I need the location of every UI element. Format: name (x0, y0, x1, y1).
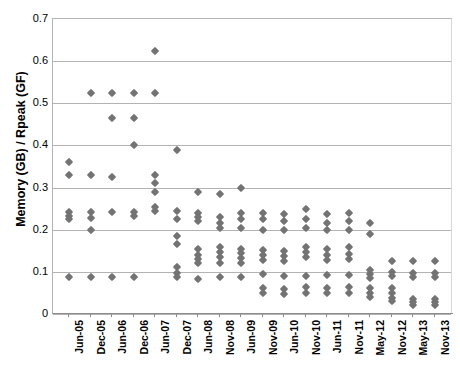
data-point (194, 188, 202, 196)
data-point (173, 207, 181, 215)
x-axis-tick-label: May-12 (374, 320, 386, 356)
data-point (173, 145, 181, 153)
y-axis-tick-label: 0.7 (4, 12, 48, 24)
data-point (130, 89, 138, 97)
plot-area (52, 18, 452, 313)
x-axis-tick (176, 313, 177, 317)
data-point (302, 289, 310, 297)
gridline (53, 145, 451, 146)
data-point (87, 214, 95, 222)
y-axis-tick-label: 0 (4, 307, 48, 319)
gridline (53, 230, 451, 231)
data-point (345, 255, 353, 263)
data-point (345, 225, 353, 233)
scatter-chart: Memory (GB) / Rpeak (GF) 0.70.60.50.40.3… (0, 0, 460, 366)
data-point (259, 289, 267, 297)
x-axis-line (52, 313, 453, 314)
data-point (87, 273, 95, 281)
data-point (237, 259, 245, 267)
x-axis-tick-label: Nov-12 (396, 320, 408, 355)
data-point (216, 258, 224, 266)
y-axis-tick-label: 0.1 (4, 265, 48, 277)
x-axis-tick (305, 313, 306, 317)
data-point (280, 257, 288, 265)
data-point (280, 272, 288, 280)
x-axis-tick-label: Jun-08 (202, 320, 214, 354)
data-point (259, 256, 267, 264)
data-point (280, 217, 288, 225)
data-point (87, 89, 95, 97)
data-point (151, 188, 159, 196)
data-point (216, 273, 224, 281)
data-point (302, 204, 310, 212)
data-point (194, 275, 202, 283)
data-point (409, 257, 417, 265)
data-point (259, 225, 267, 233)
data-point (388, 257, 396, 265)
data-point (108, 114, 116, 122)
gridline (53, 61, 451, 62)
data-point (65, 273, 73, 281)
data-point (345, 217, 353, 225)
x-axis-tick-label: Dec-06 (138, 320, 150, 354)
x-axis-tick-label: Jun-10 (288, 320, 300, 354)
data-point (366, 219, 374, 227)
data-point (302, 215, 310, 223)
data-point (65, 171, 73, 179)
x-axis-tick (219, 313, 220, 317)
x-axis-tick (111, 313, 112, 317)
gridline (53, 103, 451, 104)
x-axis-tick-label: Nov-13 (439, 320, 451, 355)
data-point (194, 259, 202, 267)
x-axis-tick-label: Nov-10 (310, 320, 322, 355)
x-axis-tick (348, 313, 349, 317)
data-point (366, 230, 374, 238)
data-point (237, 273, 245, 281)
x-axis-tick-label: Jun-09 (245, 320, 257, 354)
x-axis-tick (283, 313, 284, 317)
x-axis-tick-label: Nov-11 (353, 320, 365, 354)
gridline (53, 188, 451, 189)
data-point (194, 217, 202, 225)
x-axis-tick (434, 313, 435, 317)
y-axis-tick-label: 0.6 (4, 54, 48, 66)
data-point (151, 47, 159, 55)
x-axis-tick-label: Nov-09 (267, 320, 279, 355)
data-point (302, 253, 310, 261)
data-point (173, 240, 181, 248)
data-point (173, 215, 181, 223)
y-axis-tick-labels: 0.70.60.50.40.30.20.10 (0, 0, 48, 366)
y-axis-tick-label: 0.5 (4, 96, 48, 108)
data-point (237, 183, 245, 191)
data-point (302, 272, 310, 280)
data-point (130, 141, 138, 149)
data-point (280, 290, 288, 298)
x-axis-tick (197, 313, 198, 317)
x-axis-tick (133, 313, 134, 317)
x-axis-tick (326, 313, 327, 317)
x-axis-tick-label: Dec-05 (95, 320, 107, 354)
data-point (151, 179, 159, 187)
data-point (108, 173, 116, 181)
data-point (65, 158, 73, 166)
x-axis-tick-label: May-13 (417, 320, 429, 356)
data-point (237, 215, 245, 223)
data-point (87, 171, 95, 179)
data-point (151, 89, 159, 97)
x-axis-tick-label: Jun-07 (159, 320, 171, 354)
data-point (108, 273, 116, 281)
x-axis-tick (391, 313, 392, 317)
x-axis-tick (68, 313, 69, 317)
data-point (323, 225, 331, 233)
x-axis-tick-label: Jun-11 (331, 320, 343, 353)
data-point (431, 257, 439, 265)
data-point (216, 190, 224, 198)
x-axis-tick-label: Jun-06 (116, 320, 128, 354)
x-axis-tick-label: Jun-05 (73, 320, 85, 354)
data-point (108, 207, 116, 215)
x-axis-tick-label: Nov-08 (224, 320, 236, 355)
data-point (130, 114, 138, 122)
x-axis-tick (154, 313, 155, 317)
x-axis-tick (369, 313, 370, 317)
data-point (345, 289, 353, 297)
